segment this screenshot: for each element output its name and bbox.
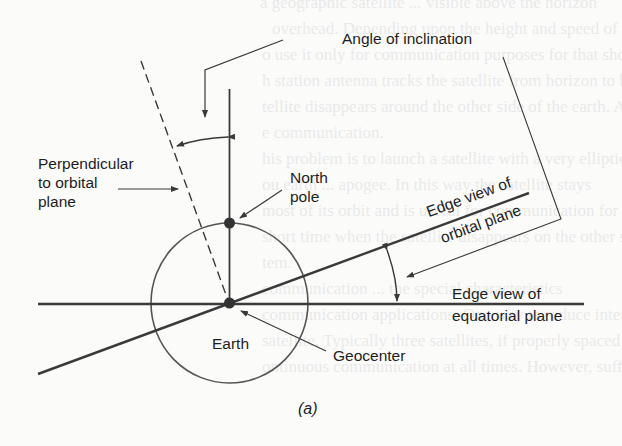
- orbital-plane-line: [38, 193, 529, 374]
- label-equatorial-plane-line1: Edge view of: [452, 285, 541, 303]
- label-north-pole-line2: pole: [290, 188, 319, 206]
- inclination-leader-right: [407, 57, 561, 277]
- orbit-inclination-diagram: [0, 0, 622, 446]
- geocenter-arrow: [241, 311, 326, 351]
- label-angle-of-inclination: Angle of inclination: [342, 30, 472, 48]
- label-perpendicular-line1: Perpendicular: [38, 155, 134, 173]
- orbital-normal-dashed-line: [141, 61, 229, 303]
- angle-arc-right: [387, 250, 397, 301]
- geocenter-dot: [224, 298, 235, 309]
- label-north-pole-line1: North: [290, 169, 328, 187]
- label-perpendicular-line2: to orbital: [38, 174, 97, 192]
- label-earth: Earth: [212, 335, 249, 353]
- label-perpendicular-line3: plane: [38, 193, 76, 211]
- angle-arc-top: [177, 137, 228, 146]
- label-geocenter: Geocenter: [333, 347, 405, 365]
- north-pole-dot: [224, 218, 235, 229]
- inclination-leader-left: [205, 40, 283, 117]
- north-pole-arrow: [240, 190, 282, 218]
- label-equatorial-plane-line2: equatorial plane: [452, 307, 562, 325]
- figure-caption: (a): [298, 400, 318, 418]
